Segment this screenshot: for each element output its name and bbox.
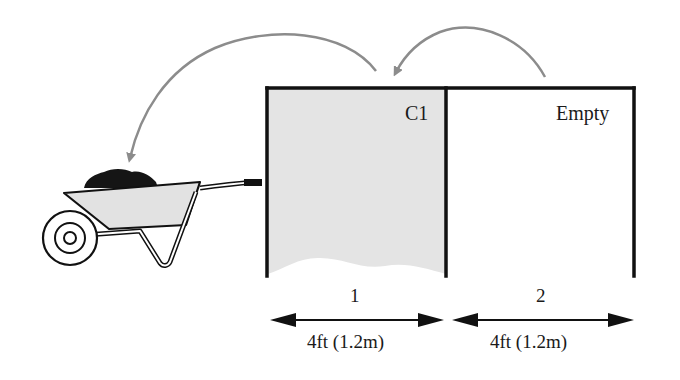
compost-bins-diagram xyxy=(0,0,680,380)
bin-1-number: 1 xyxy=(350,286,360,305)
arrow-bin2-to-bin1 xyxy=(396,28,545,77)
wheelbarrow-icon xyxy=(43,169,262,266)
bin-2-tag: Empty xyxy=(556,103,609,123)
bin-2-width-label: 4ft (1.2m) xyxy=(490,332,567,351)
bin-1-width-label: 4ft (1.2m) xyxy=(307,332,384,351)
compost-heap-icon xyxy=(84,169,158,188)
bin-2-number: 2 xyxy=(536,286,546,305)
dimension-arrows xyxy=(270,313,634,327)
bin-1-tag: C1 xyxy=(405,103,428,123)
